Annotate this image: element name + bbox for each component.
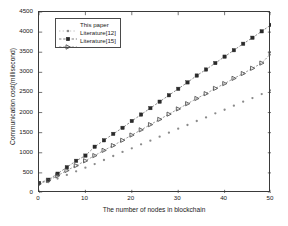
legend-label-2: Literature[15]	[78, 37, 116, 45]
legend-item-2[interactable]: Literature[15]	[58, 37, 116, 45]
y-tick-label-3: 1500	[0, 129, 33, 135]
y-tick-label-6: 3000	[0, 68, 33, 74]
y-tick-label-0: 0	[0, 189, 33, 195]
legend: This paperLiterature[12]Literature[15]	[55, 18, 121, 48]
legend-marker-dot-icon	[58, 21, 78, 29]
x-tick-label-3: 30	[174, 195, 181, 201]
series-0	[39, 89, 271, 186]
x-tick-label-4: 40	[220, 195, 227, 201]
x-tick-label-5: 50	[267, 195, 274, 201]
legend-label-0: This paper	[78, 21, 109, 29]
figure-canvas: 050010001500200025003000350040004500 The…	[0, 0, 288, 226]
legend-marker-triangle-right-icon	[58, 37, 78, 45]
y-tick-label-1: 500	[0, 169, 33, 175]
legend-item-0[interactable]: This paper	[58, 21, 116, 29]
x-tick-label-1: 10	[81, 195, 88, 201]
series-2	[39, 51, 271, 186]
y-tick-label-8: 4000	[0, 28, 33, 34]
y-tick-label-7: 3500	[0, 48, 33, 54]
y-tick-label-2: 1000	[0, 149, 33, 155]
y-tick-label-5: 2500	[0, 88, 33, 94]
x-tick-label-2: 20	[127, 195, 134, 201]
legend-item-1[interactable]: Literature[12]	[58, 29, 116, 37]
y-tick-label-4: 2000	[0, 108, 33, 114]
legend-marker-square-icon	[58, 29, 78, 37]
legend-label-1: Literature[12]	[78, 29, 116, 37]
y-tick-label-9: 4500	[0, 8, 33, 14]
x-tick-label-0: 0	[36, 195, 39, 201]
x-axis-label: The number of nodes in blockchain	[38, 206, 270, 213]
y-axis-label: Communication cost(millisecond)	[9, 12, 16, 182]
